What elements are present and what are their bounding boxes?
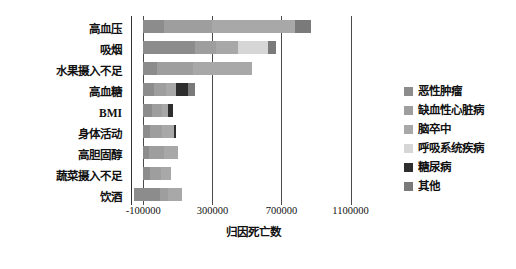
category-label: 蔬菜摄入不足 <box>0 171 122 183</box>
stacked-bar <box>133 62 373 75</box>
legend-swatch-icon <box>404 144 413 153</box>
category-label: BMI <box>0 108 122 120</box>
bar-segment <box>188 83 195 96</box>
category-label: 水果摄入不足 <box>0 66 122 78</box>
bar-segment <box>168 188 182 201</box>
bar-segment <box>162 125 174 138</box>
bar-segment <box>166 83 176 96</box>
bar-segment <box>143 41 195 54</box>
stacked-bar <box>133 146 373 159</box>
bar-segment <box>143 62 157 75</box>
x-axis-title: 归因死亡数 <box>133 223 373 239</box>
legend-swatch-icon <box>404 87 413 96</box>
legend-label: 恶性肿瘤 <box>418 85 462 97</box>
stacked-bar <box>133 125 373 138</box>
bar-segment <box>168 104 173 117</box>
legend-label: 脑卒中 <box>418 123 451 135</box>
plot-area <box>133 16 373 205</box>
bar-segment <box>149 146 165 159</box>
category-label: 身体活动 <box>0 129 122 141</box>
bar-segment <box>143 104 152 117</box>
bar-segment <box>268 41 277 54</box>
category-label: 高胆固醇 <box>0 150 122 162</box>
y-axis-spine <box>131 16 132 205</box>
stacked-bar <box>133 20 373 33</box>
stacked-bar <box>133 167 373 180</box>
bar-segment <box>152 104 162 117</box>
bar-segment <box>143 125 150 138</box>
bar-segment <box>157 62 193 75</box>
legend-swatch-icon <box>404 163 413 172</box>
category-axis: 高血压吸烟水果摄入不足高血糖BMI身体活动高胆固醇蔬菜摄入不足饮酒 <box>0 18 128 203</box>
legend-item: 恶性肿瘤 <box>404 82 516 100</box>
bar-segment <box>143 83 153 96</box>
bar-segment <box>295 20 311 33</box>
x-tick-label: 1100000 <box>311 205 391 216</box>
legend-item: 呼吸系统疾病 <box>404 139 516 157</box>
legend-item: 其他 <box>404 177 516 195</box>
category-label: 高血压 <box>0 24 122 36</box>
bar-segment <box>176 83 188 96</box>
legend-swatch-icon <box>404 106 413 115</box>
category-label: 高血糖 <box>0 87 122 99</box>
bar-segment <box>160 188 169 201</box>
legend-swatch-icon <box>404 182 413 191</box>
legend-label: 糖尿病 <box>418 161 451 173</box>
legend-label: 呼吸系统疾病 <box>418 142 484 154</box>
category-label: 吸烟 <box>0 45 122 57</box>
chart-legend: 恶性肿瘤缺血性心脏病脑卒中呼吸系统疾病糖尿病其他 <box>404 82 516 196</box>
bar-segment <box>161 167 171 180</box>
bar-segment <box>150 167 160 180</box>
legend-swatch-icon <box>404 125 413 134</box>
bar-segment <box>164 20 212 33</box>
x-tick-label: 300000 <box>172 205 252 216</box>
category-label: 饮酒 <box>0 192 122 204</box>
bar-segment <box>154 83 166 96</box>
bar-segment <box>238 41 267 54</box>
bar-segment <box>216 41 238 54</box>
x-axis: 归因死亡数 -1000003000007000001100000 <box>0 205 516 235</box>
legend-item: 缺血性心脏病 <box>404 101 516 119</box>
bar-segment <box>150 125 162 138</box>
bar-segment <box>143 167 150 180</box>
bar-segment <box>212 20 295 33</box>
stacked-bar <box>133 104 373 117</box>
chart-root: 高血压吸烟水果摄入不足高血糖BMI身体活动高胆固醇蔬菜摄入不足饮酒 归因死亡数 … <box>0 0 516 269</box>
bar-segment <box>193 62 252 75</box>
bar-segment <box>174 125 176 138</box>
bar-segment <box>195 41 216 54</box>
bar-segment <box>164 146 178 159</box>
x-tick-label: 700000 <box>241 205 321 216</box>
legend-label: 缺血性心脏病 <box>418 104 484 116</box>
x-tick-label: -100000 <box>103 205 183 216</box>
stacked-bar <box>133 83 373 96</box>
bar-segment <box>143 20 164 33</box>
stacked-bar <box>133 41 373 54</box>
stacked-bar <box>133 188 373 201</box>
legend-item: 糖尿病 <box>404 158 516 176</box>
legend-label: 其他 <box>418 180 440 192</box>
bar-segment <box>134 188 160 201</box>
legend-item: 脑卒中 <box>404 120 516 138</box>
